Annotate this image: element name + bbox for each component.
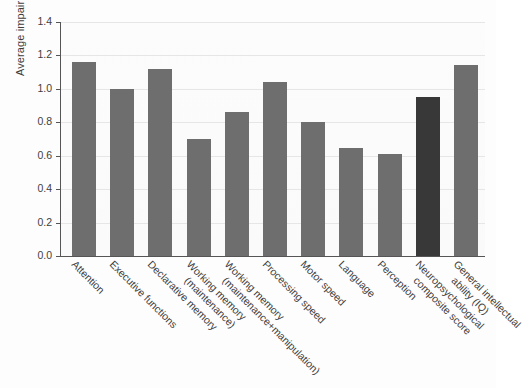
gridline — [61, 22, 485, 23]
y-tick-mark — [56, 122, 61, 123]
bar — [339, 148, 363, 256]
y-tick-label: 0.8 — [37, 115, 52, 127]
y-tick-mark — [56, 223, 61, 224]
bar — [110, 89, 134, 256]
y-tick-mark — [56, 256, 61, 257]
y-axis-title: Average impairment — [14, 0, 30, 76]
gridline — [61, 55, 485, 56]
y-tick-label: 1.2 — [37, 48, 52, 60]
y-tick-label: 0.0 — [37, 249, 52, 261]
bar — [225, 112, 249, 256]
y-tick-label: 0.2 — [37, 216, 52, 228]
y-tick-label: 1.4 — [37, 15, 52, 27]
y-tick-mark — [56, 55, 61, 56]
bar — [148, 69, 172, 256]
y-tick-label: 1.0 — [37, 82, 52, 94]
bar — [72, 62, 96, 256]
bar — [187, 139, 211, 256]
y-tick-mark — [56, 22, 61, 23]
bar — [301, 122, 325, 256]
bar — [378, 154, 402, 256]
bar — [263, 82, 287, 256]
y-tick-mark — [56, 89, 61, 90]
y-axis-spine — [60, 22, 61, 256]
y-tick-mark — [56, 156, 61, 157]
x-axis-tick-labels: AttentionExecutive functionsDeclarative … — [61, 258, 496, 388]
bar — [416, 97, 440, 256]
plot-area: 1.41.21.00.80.60.40.20.0 — [61, 22, 485, 256]
y-tick-label: 0.4 — [37, 182, 52, 194]
bar — [454, 65, 478, 256]
x-tick-label: Executive functions — [107, 258, 180, 331]
x-tick-label: Attention — [69, 258, 107, 296]
y-tick-mark — [56, 189, 61, 190]
y-tick-label: 0.6 — [37, 149, 52, 161]
